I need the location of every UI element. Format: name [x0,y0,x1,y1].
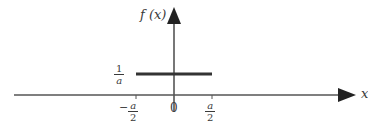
tick-neg-numerator: a [128,100,138,112]
tick-label-zero: 0 [170,101,178,115]
pulse-height-label: 1 a [114,63,124,86]
pulse-height-numerator: 1 [114,63,124,75]
y-axis-label-text: f (x) [140,7,166,22]
tick-pos-denominator: 2 [205,112,215,123]
tick-label-neg-sign: − [119,101,128,114]
tick-neg-denominator: 2 [128,112,138,123]
y-axis-label: f (x) [140,7,166,22]
pulse-height-denominator: a [114,75,124,86]
y-axis-arrow-icon [167,7,181,24]
tick-label-pos-a-half: a 2 [205,100,215,123]
tick-label-neg-a-half: a 2 [128,100,138,123]
x-axis-arrow-icon [338,88,356,102]
x-axis-label: x [361,86,368,101]
tick-pos-numerator: a [205,100,215,112]
